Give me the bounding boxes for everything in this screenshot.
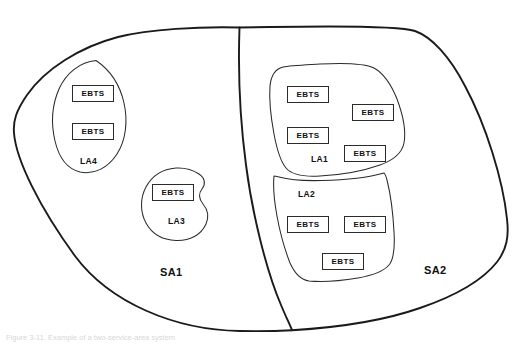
ebts-node-label: EBTS <box>162 189 185 197</box>
local-area-label-la2: LA2 <box>298 190 315 199</box>
ebts-node[interactable]: EBTS <box>287 216 329 233</box>
local-area-label-la4: LA4 <box>80 157 97 166</box>
service-area-label-sa1: SA1 <box>160 267 183 278</box>
ebts-node-label: EBTS <box>82 128 105 136</box>
ebts-node[interactable]: EBTS <box>344 216 386 233</box>
figure-diagram: EBTSEBTSEBTSEBTSEBTSEBTSEBTSEBTSEBTSEBTS… <box>0 0 520 344</box>
ebts-node[interactable]: EBTS <box>344 145 386 162</box>
local-area-label-la3: LA3 <box>168 217 185 226</box>
ebts-node-label: EBTS <box>297 221 320 229</box>
service-area-label-sa2: SA2 <box>424 265 447 276</box>
ebts-node[interactable]: EBTS <box>152 184 194 201</box>
ebts-node[interactable]: EBTS <box>72 123 114 140</box>
ebts-node-label: EBTS <box>297 91 320 99</box>
local-area-la3-outline <box>142 168 208 241</box>
diagram-canvas <box>0 0 520 344</box>
ebts-node[interactable]: EBTS <box>287 127 329 144</box>
figure-caption: Figure 3-11. Example of a two-service-ar… <box>6 334 175 342</box>
service-area-outer-boundary <box>14 26 508 331</box>
ebts-node[interactable]: EBTS <box>287 86 329 103</box>
ebts-node-label: EBTS <box>354 221 377 229</box>
ebts-node[interactable]: EBTS <box>352 104 394 121</box>
ebts-node-label: EBTS <box>354 150 377 158</box>
service-area-divider <box>239 28 292 331</box>
ebts-node-label: EBTS <box>82 90 105 98</box>
ebts-node[interactable]: EBTS <box>322 253 364 270</box>
ebts-node-label: EBTS <box>332 258 355 266</box>
ebts-node[interactable]: EBTS <box>72 85 114 102</box>
local-area-label-la1: LA1 <box>311 155 328 164</box>
ebts-node-label: EBTS <box>297 132 320 140</box>
ebts-node-label: EBTS <box>362 109 385 117</box>
